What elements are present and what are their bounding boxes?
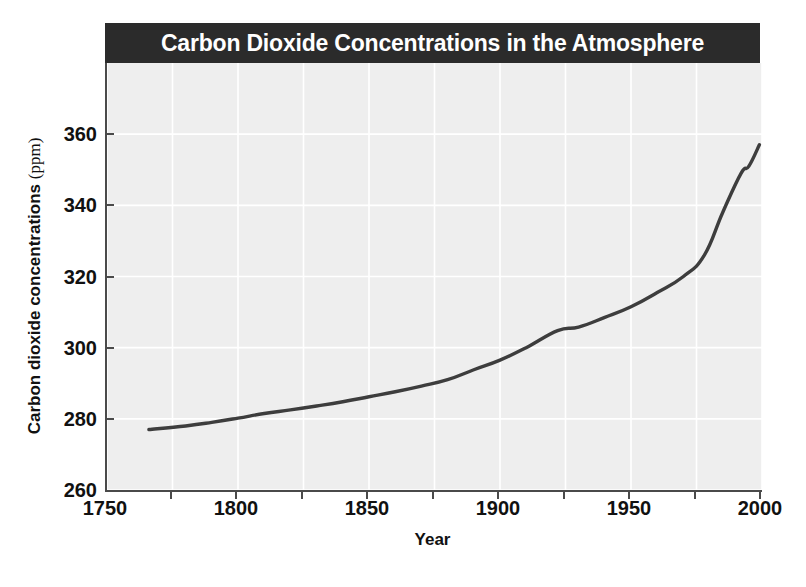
plot-area [105, 63, 762, 492]
x-axis-tick-label: 1850 [322, 497, 412, 520]
x-axis-tick-mark [497, 490, 499, 499]
x-axis-tick-mark [628, 490, 630, 499]
data-line-series [107, 63, 762, 490]
x-axis-tick-mark [366, 490, 368, 499]
x-axis-tick-mark [432, 490, 434, 499]
y-axis-tick-mark [105, 347, 114, 349]
x-axis-tick-mark [694, 490, 696, 499]
x-axis-tick-label: 1800 [191, 497, 281, 520]
y-axis-title-main: Carbon dioxide concentrations [25, 184, 44, 434]
x-axis-tick-mark [301, 490, 303, 499]
y-axis-tick-mark [105, 276, 114, 278]
x-axis-tick-mark [759, 490, 761, 499]
x-axis-tick-mark [170, 490, 172, 499]
y-axis-tick-label: 360 [37, 123, 97, 146]
y-axis-tick-mark [105, 418, 114, 420]
chart-title-bar: Carbon Dioxide Concentrations in the Atm… [105, 23, 760, 63]
y-axis-title: Carbon dioxide concentrations (ppm) [25, 121, 45, 451]
plot-inner [107, 63, 762, 490]
y-axis-tick-mark [105, 133, 114, 135]
y-axis-tick-label: 300 [37, 336, 97, 359]
chart-title: Carbon Dioxide Concentrations in the Atm… [161, 30, 704, 57]
y-axis-title-unit: (ppm) [25, 138, 44, 180]
x-axis-tick-label: 2000 [715, 497, 805, 520]
x-axis-tick-label: 1950 [584, 497, 674, 520]
chart-figure: Carbon Dioxide Concentrations in the Atm… [0, 0, 806, 587]
x-axis-tick-mark [563, 490, 565, 499]
y-axis-tick-label: 280 [37, 407, 97, 430]
x-axis-tick-mark [235, 490, 237, 499]
x-axis-tick-label: 1750 [60, 497, 150, 520]
x-axis-title: Year [105, 530, 760, 550]
y-axis-tick-label: 340 [37, 194, 97, 217]
y-axis-tick-label: 320 [37, 265, 97, 288]
y-axis-tick-mark [105, 204, 114, 206]
x-axis-tick-label: 1900 [453, 497, 543, 520]
